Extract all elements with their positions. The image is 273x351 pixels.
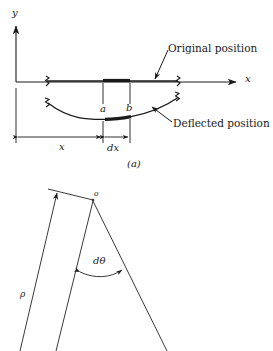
original-beam	[47, 81, 178, 82]
projection-ticks	[103, 83, 130, 104]
panel-a-caption: (a)	[127, 159, 141, 169]
y-axis-label: y	[12, 8, 18, 18]
deflected-position-leader	[152, 107, 172, 122]
point-b-label: b	[126, 103, 132, 113]
curvature-radii	[56, 201, 167, 351]
deflected-beam-element-ab	[105, 117, 131, 120]
rho-arrow-line	[20, 193, 57, 351]
angle-dtheta-label: dθ	[93, 256, 105, 266]
deflected-beam-left-segment	[48, 103, 105, 119]
deflected-position-label: Deflected position	[173, 118, 270, 129]
deflected-beam	[48, 98, 178, 120]
deflected-left-break-symbol	[45, 98, 50, 107]
angle-arc-dtheta	[80, 270, 122, 277]
right-break-symbol	[177, 76, 181, 86]
point-a-label: a	[100, 104, 106, 114]
angle-arc-dtheta-path	[80, 270, 122, 277]
radius-of-curvature-arrow	[20, 189, 93, 351]
radius-of-curvature-label: ρ	[20, 290, 25, 299]
center-of-curvature-label: o	[94, 190, 99, 198]
deflected-position-leader-line	[152, 107, 172, 122]
center-of-curvature-point	[92, 199, 95, 202]
original-position-leader-line	[155, 50, 168, 79]
rho-reference-tick	[48, 189, 93, 200]
deflected-beam-end-ticks	[45, 92, 180, 107]
dimension-dx-label: dx	[107, 143, 119, 153]
deflected-beam-right-segment	[131, 98, 178, 117]
dimension-x-label: x	[59, 142, 65, 152]
original-position-label: Original position	[168, 43, 257, 54]
radius-left-line	[56, 201, 93, 351]
original-position-leader	[155, 50, 168, 79]
radius-right-line	[93, 201, 167, 351]
beam-curvature-figure: y x Original position Deflected position…	[0, 0, 273, 351]
x-axis-label: x	[245, 74, 251, 84]
